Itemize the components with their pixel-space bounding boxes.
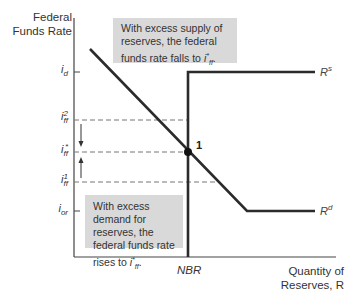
equilibrium-point	[184, 148, 192, 156]
arrow-up-icon	[79, 157, 84, 163]
y-axis-label-line1: Federal	[6, 10, 72, 24]
excess-demand-note: With excess demand for reserves, the fed…	[85, 195, 183, 248]
excess-supply-note: With excess supply of reserves, the fede…	[113, 18, 237, 63]
tick-label-i-ff1: i1ff	[38, 173, 68, 187]
note-suffix: .	[139, 256, 142, 268]
x-axis-label-line1: Quantity of	[266, 264, 344, 278]
equilibrium-label: 1	[196, 139, 202, 151]
tick-label-i-ff2: i2ff	[38, 110, 68, 124]
y-axis-label-line2: Funds Rate	[6, 24, 72, 38]
arrow-down-icon	[79, 141, 84, 147]
x-axis-label: Quantity of Reserves, R	[266, 264, 344, 292]
supply-curve	[188, 72, 315, 257]
demand-curve-label: Rd	[320, 203, 332, 217]
tick-label-i-d: id	[38, 63, 68, 78]
note-suffix: .	[213, 52, 216, 64]
x-axis-label-line2: Reserves, R	[266, 278, 344, 292]
note-var-sup: *	[206, 51, 209, 58]
x-tick-label-nbr: NBR	[177, 264, 201, 276]
tick-label-i-or: ior	[38, 202, 68, 217]
note-var-sup: *	[132, 255, 135, 262]
supply-curve-label: Rs	[320, 64, 332, 78]
y-axis-label: Federal Funds Rate	[6, 10, 72, 38]
tick-label-i-ff-star: i*ff	[38, 143, 68, 157]
